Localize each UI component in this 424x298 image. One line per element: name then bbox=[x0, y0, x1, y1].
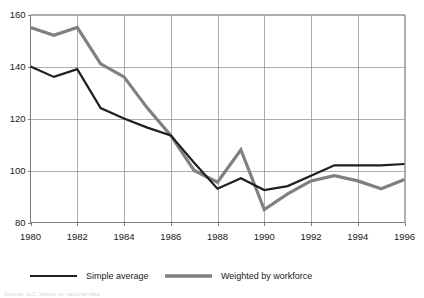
x-tick-label-1996: 1996 bbox=[394, 231, 415, 242]
legend-label-0[interactable]: Simple average bbox=[86, 271, 149, 281]
x-tick-label-1980: 1980 bbox=[20, 231, 41, 242]
x-tick-label-1982: 1982 bbox=[67, 231, 88, 242]
x-tick-label-1994: 1994 bbox=[347, 231, 368, 242]
y-tick-label-100: 100 bbox=[10, 165, 26, 176]
footnote-text: Source: ILO, based on national data bbox=[4, 291, 101, 297]
y-tick-label-140: 140 bbox=[10, 61, 26, 72]
x-tick-label-1986: 1986 bbox=[160, 231, 181, 242]
y-tick-label-120: 120 bbox=[10, 113, 26, 124]
x-tick-label-1988: 1988 bbox=[207, 231, 228, 242]
y-tick-label-80: 80 bbox=[15, 217, 26, 228]
chart-container: 80100120140160 1980198219841986198819901… bbox=[0, 0, 424, 298]
y-tick-label-160: 160 bbox=[10, 9, 26, 20]
legend-label-1[interactable]: Weighted by workforce bbox=[221, 271, 312, 281]
x-tick-label-1992: 1992 bbox=[300, 231, 321, 242]
line-chart: 80100120140160 1980198219841986198819901… bbox=[0, 0, 424, 298]
chart-background bbox=[0, 0, 424, 298]
chart-footnote: Source: ILO, based on national data bbox=[4, 291, 101, 297]
x-tick-label-1990: 1990 bbox=[254, 231, 275, 242]
x-tick-label-1984: 1984 bbox=[113, 231, 134, 242]
